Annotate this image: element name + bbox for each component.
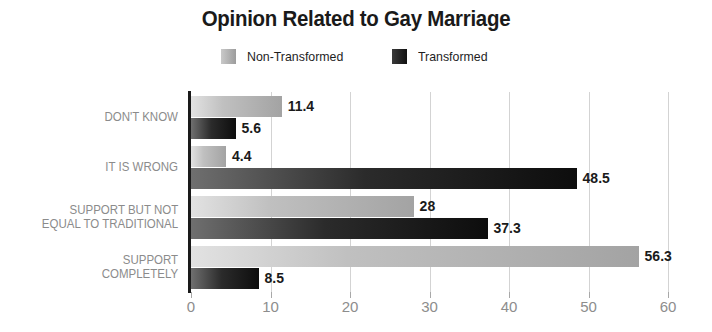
y-axis-category-labels: DON'T KNOWIT IS WRONGSUPPORT BUT NOT EQU… [0,92,186,292]
x-axis-tick-label: 60 [660,298,677,315]
bar-non-transformed [191,96,282,117]
bar-value-label: 11.4 [288,98,314,114]
legend-item-transformed: Transformed [392,49,491,64]
legend-item-non-transformed: Non-Transformed [221,49,348,64]
bar-value-label: 8.5 [265,270,284,286]
x-axis-tick-label: 20 [342,298,359,315]
category-label: IT IS WRONG [105,160,178,174]
bar-non-transformed [191,196,414,217]
bar-value-label: 37.3 [494,220,521,236]
plot-area: 010203040506011.45.64.448.52837.356.38.5 [191,92,668,292]
bar-transformed [191,168,577,189]
chart-title: Opinion Related to Gay Marriage [25,6,687,32]
x-axis-tick-label: 40 [501,298,518,315]
bar-non-transformed [191,246,639,267]
bar-transformed [191,268,259,289]
x-axis-tick-label: 0 [187,298,195,315]
legend-label-transformed: Transformed [418,49,488,64]
bar-value-label: 56.3 [645,248,672,264]
bar-transformed [191,118,236,139]
legend-swatch-transformed [392,49,407,64]
bar-value-label: 28 [420,198,436,214]
bar-value-label: 5.6 [242,120,261,136]
bar-value-label: 48.5 [583,170,610,186]
legend-label-non-transformed: Non-Transformed [247,49,343,64]
x-axis-tick-label: 50 [580,298,597,315]
bar-transformed [191,218,488,239]
chart-legend: Non-Transformed Transformed [0,49,712,64]
chart-container: Opinion Related to Gay Marriage Non-Tran… [0,0,712,332]
x-axis-tick-label: 10 [262,298,279,315]
bar-non-transformed [191,146,226,167]
x-axis-tick-label: 30 [421,298,438,315]
category-label: SUPPORT COMPLETELY [102,253,178,281]
category-label: SUPPORT BUT NOT EQUAL TO TRADITIONAL [42,203,178,231]
bar-value-label: 4.4 [232,148,251,164]
legend-swatch-non-transformed [221,49,236,64]
category-label: DON'T KNOW [104,110,178,124]
